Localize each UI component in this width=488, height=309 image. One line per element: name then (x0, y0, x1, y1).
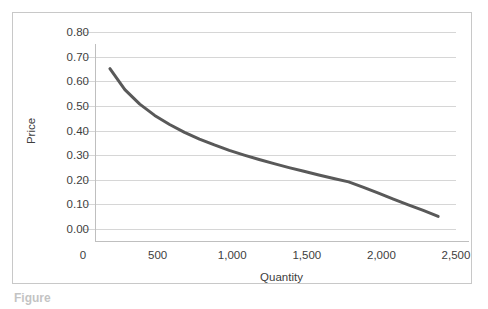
x-tick-label: 1,000 (202, 249, 262, 261)
figure-caption: Figure (14, 291, 51, 305)
y-tick-label: 0.60 (49, 76, 89, 87)
x-tick-label: 2,000 (351, 249, 411, 261)
y-tick-label: 0.50 (49, 101, 89, 112)
x-tick-label: 500 (128, 249, 188, 261)
chart-frame: 0.000.100.200.300.400.500.600.700.80 050… (12, 12, 472, 284)
x-tick-label: 2,500 (426, 249, 486, 261)
y-tick-label: 0.40 (49, 126, 89, 137)
x-tick-label: 0 (53, 249, 113, 261)
y-tick-label: 0.30 (49, 150, 89, 161)
x-axis-title: Quantity (95, 271, 468, 283)
y-tick-label: 0.80 (49, 27, 89, 38)
y-axis-title: Price (25, 101, 37, 161)
gridline (83, 32, 456, 33)
y-tick-label: 0.70 (49, 52, 89, 63)
y-tick-label: 0.10 (49, 199, 89, 210)
y-tick-label: 0.20 (49, 175, 89, 186)
demand-curve (95, 44, 468, 241)
x-axis-line (95, 241, 469, 242)
x-tick-label: 1,500 (277, 249, 337, 261)
y-tick-labels: 0.000.100.200.300.400.500.600.700.80 (45, 13, 89, 309)
y-tick-label: 0.00 (49, 224, 89, 235)
